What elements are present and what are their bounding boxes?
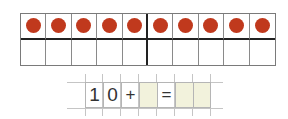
ten-frame-cell [199,40,224,66]
red-dot-icon [178,18,193,33]
ten-frame-cell [148,40,173,66]
equation-cell-digit-1: 1 [85,82,103,108]
ten-frame-cell [173,40,198,66]
ten-frame-cell [173,14,198,40]
ten-frame-cell [224,40,249,66]
ten-frame-cell [148,14,173,40]
ten-frame-cell [250,14,275,40]
ten-frame-cell [46,40,71,66]
ten-frame-cell [123,40,148,66]
red-dot-icon [76,18,91,33]
ten-frame [20,13,276,66]
red-dot-icon [203,18,218,33]
ten-frame-cell [199,14,224,40]
equation-cell-digit-0: 0 [103,82,121,108]
red-dot-icon [153,18,168,33]
ten-frame-cell [97,14,122,40]
plus-sign: + [121,82,139,108]
ten-frame-cell [21,40,46,66]
red-dot-icon [229,18,244,33]
ten-frame-cell [72,40,97,66]
red-dot-icon [127,18,142,33]
ten-frame-cell [123,14,148,40]
equation-row: 1 0 + = [85,82,211,108]
addend-answer-box[interactable] [139,82,157,108]
ten-frame-cell [97,40,122,66]
sum-answer-box-tens[interactable] [175,82,193,108]
red-dot-icon [26,18,41,33]
red-dot-icon [51,18,66,33]
red-dot-icon [102,18,117,33]
ten-frame-cell [72,14,97,40]
ten-frame-cell [21,14,46,40]
sum-answer-box-ones[interactable] [193,82,211,108]
ten-frame-cell [250,40,275,66]
ten-frame-cell [224,14,249,40]
ten-frame-cell [46,14,71,40]
equals-sign: = [157,82,175,108]
red-dot-icon [255,18,270,33]
